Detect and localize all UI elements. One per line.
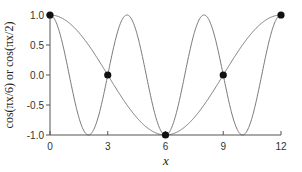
y-tick-label: 0.5: [30, 40, 44, 51]
sample-point-marker: [162, 131, 169, 138]
series-line-2: [50, 15, 281, 135]
sample-point-marker: [104, 71, 111, 78]
chart: 1.00.50.0-0.5-1.0 036912 cos(πx/6) or co…: [0, 0, 302, 172]
y-tick-label: 0.0: [30, 70, 44, 81]
x-tick-label: 0: [47, 141, 53, 152]
x-axis-title: x: [162, 153, 169, 168]
series-line-1: [50, 15, 281, 135]
y-tick-label: -0.5: [27, 100, 45, 111]
sample-markers: [46, 11, 284, 138]
x-tick-label: 12: [275, 141, 287, 152]
curves: [50, 15, 281, 135]
sample-point-marker: [46, 11, 53, 18]
x-tick-label: 9: [220, 141, 226, 152]
y-tick-label: -1.0: [27, 130, 45, 141]
sample-point-marker: [220, 71, 227, 78]
y-ticks: 1.00.50.0-0.5-1.0: [27, 10, 50, 141]
axes: [50, 15, 281, 135]
x-tick-label: 3: [105, 141, 111, 152]
x-tick-label: 6: [163, 141, 169, 152]
y-tick-label: 1.0: [30, 10, 44, 21]
y-axis-title: cos(πx/6) or cos(πx/2): [2, 22, 16, 129]
sample-point-marker: [277, 11, 284, 18]
